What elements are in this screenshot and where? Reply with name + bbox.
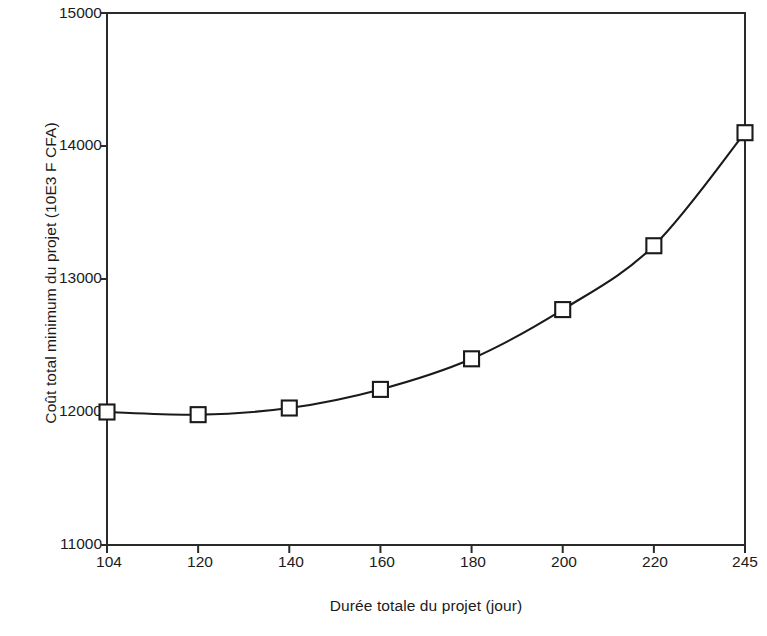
data-point-marker (464, 351, 479, 366)
data-point-marker (738, 125, 753, 140)
plot-area (0, 0, 767, 636)
data-point-marker (555, 302, 570, 317)
data-series-line (107, 133, 745, 415)
plot-frame (107, 13, 745, 545)
data-point-marker (373, 382, 388, 397)
data-point-marker (100, 405, 115, 420)
chart-figure: Coût total minimum du projet (10E3 F CFA… (0, 0, 767, 636)
data-point-markers (100, 125, 753, 422)
data-point-marker (282, 401, 297, 416)
data-point-marker (646, 238, 661, 253)
data-point-marker (191, 407, 206, 422)
